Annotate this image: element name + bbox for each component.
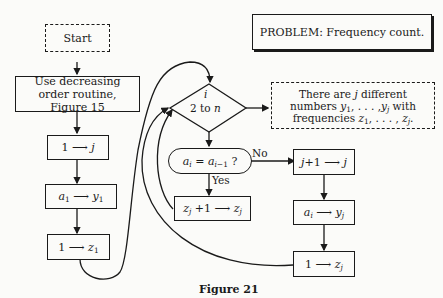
start-node: Start — [45, 24, 110, 52]
sort-routine-node: Use decreasing order routine, Figure 15 — [15, 76, 140, 112]
increment-z-label: zj +1 ⟶ zj — [183, 202, 242, 215]
loop-range: 2 to n — [190, 102, 221, 114]
figure-caption: Figure 21 — [199, 283, 259, 296]
assign-y-node: ai ⟶ yj — [293, 200, 355, 225]
reset-z-label: 1 ⟶ zj — [305, 258, 343, 271]
output-node: There are j different numbers y1, . . . … — [271, 82, 435, 129]
reset-z-node: 1 ⟶ zj — [293, 251, 355, 277]
decision-node: ai = ai−1 ? — [168, 148, 252, 174]
loop-variable: i — [204, 88, 207, 100]
init-z-label: 1 ⟶ z1 — [58, 241, 98, 254]
init-y-label: a1 ⟶ y1 — [58, 190, 103, 203]
increment-j-node: j+1 ⟶ j — [293, 149, 355, 175]
increment-j-label: j+1 ⟶ j — [301, 156, 347, 169]
init-j-label: 1 ⟶ j — [61, 141, 94, 154]
decision-label: ai = ai−1 ? — [183, 155, 238, 168]
sort-routine-label: Use decreasing order routine, Figure 15 — [22, 75, 133, 114]
problem-label: PROBLEM: — [260, 26, 323, 39]
yes-label: Yes — [212, 174, 230, 186]
assign-y-label: ai ⟶ yj — [304, 206, 344, 219]
problem-text: Frequency count. — [326, 26, 424, 39]
init-z-node: 1 ⟶ z1 — [47, 234, 110, 260]
start-label: Start — [63, 32, 91, 45]
problem-box: PROBLEM: Frequency count. — [252, 14, 432, 50]
init-y-node: a1 ⟶ y1 — [45, 184, 117, 209]
init-j-node: 1 ⟶ j — [47, 135, 109, 160]
output-label: There are j different numbers y1, . . . … — [278, 88, 428, 124]
increment-z-node: zj +1 ⟶ zj — [174, 196, 251, 221]
no-label: No — [252, 147, 268, 159]
